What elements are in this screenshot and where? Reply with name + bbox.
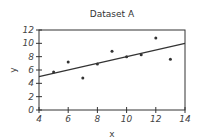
chart-title: Dataset A [90,9,135,19]
x-tick-label: 12 [150,114,162,124]
data-point [154,37,157,40]
y-tick-label: 2 [28,92,34,102]
x-tick-label: 14 [179,114,191,124]
x-axis-label: x [109,129,115,139]
data-point [96,63,99,66]
data-point [169,58,172,61]
scatter-chart: Dataset A 468101214024681012 x y [0,0,197,140]
regression-line [39,43,185,76]
y-tick-label: 10 [23,38,35,48]
y-tick-label: 12 [23,25,35,35]
x-tick-label: 4 [36,114,42,124]
y-tick-label: 6 [28,65,34,75]
y-axis-label: y [8,67,18,73]
x-tick-label: 8 [95,114,101,124]
data-point [125,55,128,58]
plot-area: 468101214024681012 [23,25,191,124]
data-point [67,61,70,64]
y-tick-label: 0 [28,105,34,115]
data-point [81,77,84,80]
x-tick-label: 6 [65,114,71,124]
data-point [52,71,55,74]
y-tick-label: 4 [28,78,34,88]
x-tick-label: 10 [121,114,133,124]
data-point [140,53,143,56]
data-point [111,50,114,53]
y-tick-label: 8 [28,52,34,62]
plot-frame [39,30,185,110]
